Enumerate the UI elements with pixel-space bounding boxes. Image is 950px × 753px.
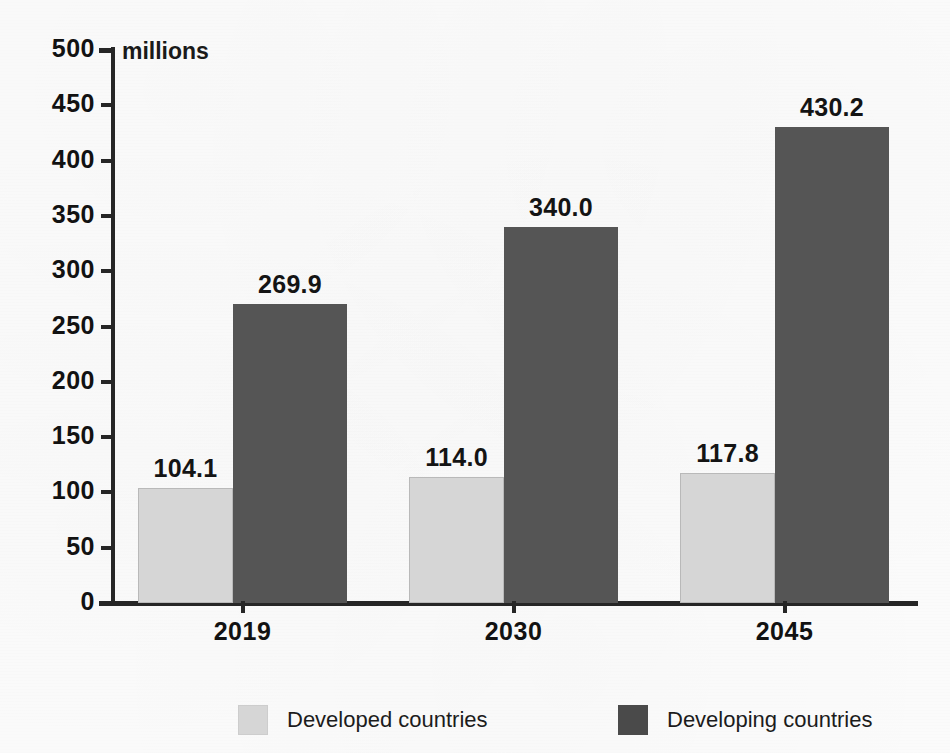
legend-item-developed[interactable]: Developed countries (238, 705, 488, 735)
y-axis-tick-label: 300 (7, 255, 95, 284)
y-axis-tick (101, 159, 114, 163)
page-background: millions 500450400350300250200150100500 … (0, 0, 950, 753)
y-axis-tick (101, 546, 114, 550)
y-axis-tick-label-wrap: 450 (0, 89, 95, 115)
legend-swatch-developing (618, 705, 648, 735)
y-axis-tick (101, 490, 114, 494)
y-axis-tick (101, 435, 114, 439)
y-axis-tick-label-wrap: 150 (0, 421, 95, 447)
y-axis-tick-label: 200 (7, 366, 95, 395)
y-axis-tick (99, 48, 115, 53)
y-axis-tick-label: 250 (7, 311, 95, 340)
bar-value-label: 104.1 (131, 454, 241, 483)
x-axis-tick (512, 601, 516, 613)
bar-value-label: 430.2 (777, 93, 887, 122)
y-axis-tick-label: 500 (7, 34, 95, 63)
y-axis-tick-label: 350 (7, 200, 95, 229)
x-axis-tick (241, 601, 245, 613)
bar-value-label: 269.9 (235, 270, 345, 299)
y-axis-tick-label-wrap: 50 (0, 532, 95, 558)
bar-value-label: 340.0 (506, 193, 616, 222)
bar-developing-countries-2045[interactable] (775, 127, 889, 603)
y-axis-tick-label: 400 (7, 145, 95, 174)
y-axis-tick-label-wrap: 350 (0, 200, 95, 226)
y-axis-tick (101, 214, 114, 218)
y-axis-tick-label: 0 (7, 587, 95, 616)
y-axis-tick-label-wrap: 100 (0, 476, 95, 502)
x-axis-category-label-2019: 2019 (173, 617, 313, 646)
bar-value-label: 114.0 (402, 443, 512, 472)
x-axis-tick (783, 601, 787, 613)
bar-value-label: 117.8 (673, 439, 783, 468)
y-axis-tick-label: 100 (7, 476, 95, 505)
legend-label: Developing countries (667, 707, 872, 733)
x-axis-category-label-2030: 2030 (444, 617, 584, 646)
y-axis-tick (101, 269, 114, 273)
y-axis-tick-label-wrap: 200 (0, 366, 95, 392)
bar-developing-countries-2019[interactable] (233, 304, 347, 603)
y-axis-tick-label-wrap: 250 (0, 311, 95, 337)
y-axis-tick-label: 50 (7, 532, 95, 561)
legend-swatch-developed (238, 705, 268, 735)
legend-item-developing[interactable]: Developing countries (618, 705, 872, 735)
y-axis-tick (101, 103, 114, 107)
bar-developing-countries-2030[interactable] (504, 227, 618, 603)
y-axis-tick-label-wrap: 500 (0, 34, 95, 60)
chart-legend: Developed countriesDeveloping countries (0, 698, 950, 748)
bar-developed-countries-2045[interactable] (680, 473, 775, 603)
grouped-bar-chart: millions 500450400350300250200150100500 … (0, 0, 950, 753)
y-axis-tick-label-wrap: 300 (0, 255, 95, 281)
y-axis-unit-label: millions (122, 38, 209, 65)
legend-label: Developed countries (287, 707, 488, 733)
y-axis-tick (101, 380, 114, 384)
y-axis-tick (99, 601, 115, 606)
y-axis-tick-label: 450 (7, 89, 95, 118)
bar-developed-countries-2030[interactable] (409, 477, 504, 603)
y-axis-tick (101, 325, 114, 329)
y-axis-tick-label-wrap: 0 (0, 587, 95, 613)
y-axis-tick-label: 150 (7, 421, 95, 450)
bar-developed-countries-2019[interactable] (138, 488, 233, 603)
x-axis-category-label-2045: 2045 (715, 617, 855, 646)
y-axis-tick-label-wrap: 400 (0, 145, 95, 171)
